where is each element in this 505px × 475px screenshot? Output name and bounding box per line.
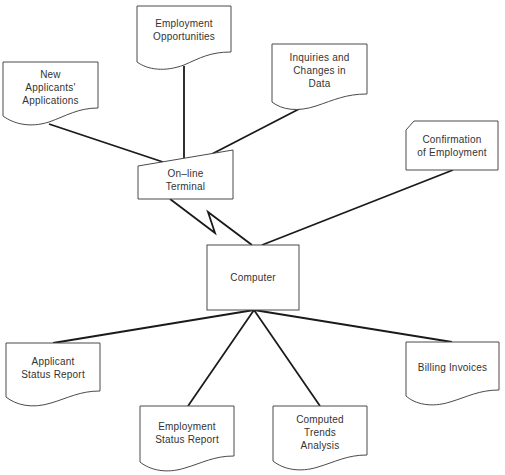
connectors (49, 66, 453, 406)
node-computed-trends-analysis: Computed Trends Analysis (273, 408, 367, 456)
node-new-applicants-applications: New Applicants' Applications (3, 64, 98, 110)
node-inquiries-and-changes: Inquiries and Changes in Data (272, 46, 367, 94)
edge-computer-applicant-status (53, 310, 254, 343)
edge-applications-terminal (49, 124, 163, 162)
node-computer: Computer (207, 245, 299, 310)
node-employment-opportunities: Employment Opportunities (137, 8, 231, 52)
node-employment-status-report: Employment Status Report (140, 410, 234, 456)
node-applicant-status-report: Applicant Status Report (6, 345, 100, 391)
node-billing-invoices: Billing Invoices (406, 344, 499, 390)
edge-inquiries-terminal (210, 108, 301, 155)
node-confirmation-of-employment: Confirmation of Employment (406, 124, 498, 168)
node-online-terminal: On–line Terminal (138, 162, 233, 198)
edge-computer-trends (254, 310, 320, 406)
edge-confirmation-computer (262, 170, 453, 245)
edge-computer-employment-status (188, 310, 254, 406)
edge-computer-billing (254, 310, 452, 342)
communication-link-terminal-computer (170, 199, 252, 245)
